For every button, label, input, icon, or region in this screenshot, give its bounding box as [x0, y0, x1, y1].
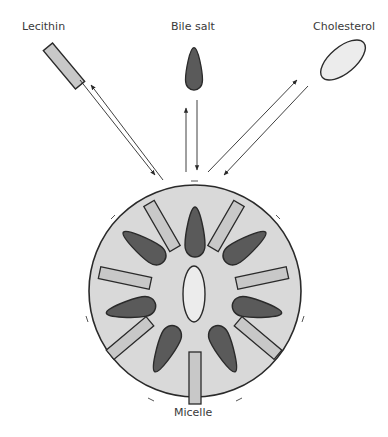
free-lecithin-molecule: [43, 43, 84, 89]
bile-salt-arrows: [186, 100, 197, 172]
free-bile-salt-molecule: [186, 48, 203, 91]
lecithin-arrows: [80, 80, 163, 180]
micelle: [86, 185, 304, 404]
cholesterol-arrows: [208, 80, 308, 175]
free-cholesterol-molecule: [314, 33, 372, 88]
micelle-diagram: [0, 0, 388, 437]
micelle-cholesterol-core: [183, 266, 205, 322]
